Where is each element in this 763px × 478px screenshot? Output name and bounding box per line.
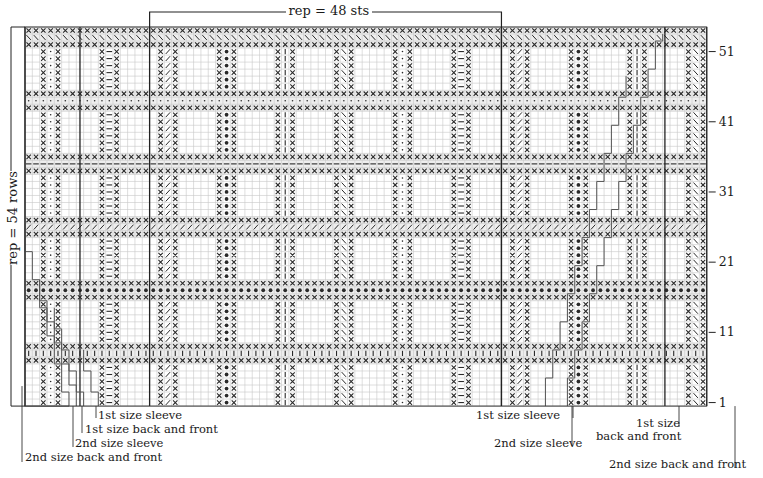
row-number-41: 41 bbox=[719, 116, 735, 128]
size-label-right-3: back and front bbox=[596, 430, 681, 442]
size-label-left-1: 1st size back and front bbox=[85, 423, 218, 435]
stitch-repeat-label: rep = 48 sts bbox=[286, 4, 373, 18]
row-number-31: 31 bbox=[719, 186, 735, 198]
row-number-1: 1 bbox=[719, 397, 727, 409]
size-label-right-1: 2nd size sleeve bbox=[494, 437, 582, 449]
knitting-chart bbox=[0, 0, 763, 478]
size-label-left-2: 2nd size sleeve bbox=[75, 437, 163, 449]
size-label-right-2: 1st size bbox=[636, 417, 680, 429]
size-label-left-0: 1st size sleeve bbox=[98, 409, 182, 421]
size-label-right-0: 1st size sleeve bbox=[476, 409, 560, 421]
size-label-left-3: 2nd size back and front bbox=[25, 451, 162, 463]
row-repeat-label: rep = 54 rows bbox=[3, 171, 23, 265]
row-number-51: 51 bbox=[719, 46, 735, 58]
row-number-11: 11 bbox=[719, 326, 735, 338]
size-label-right-4: 2nd size back and front bbox=[609, 458, 746, 470]
row-number-ticks bbox=[709, 52, 716, 403]
row-number-21: 21 bbox=[719, 256, 735, 268]
